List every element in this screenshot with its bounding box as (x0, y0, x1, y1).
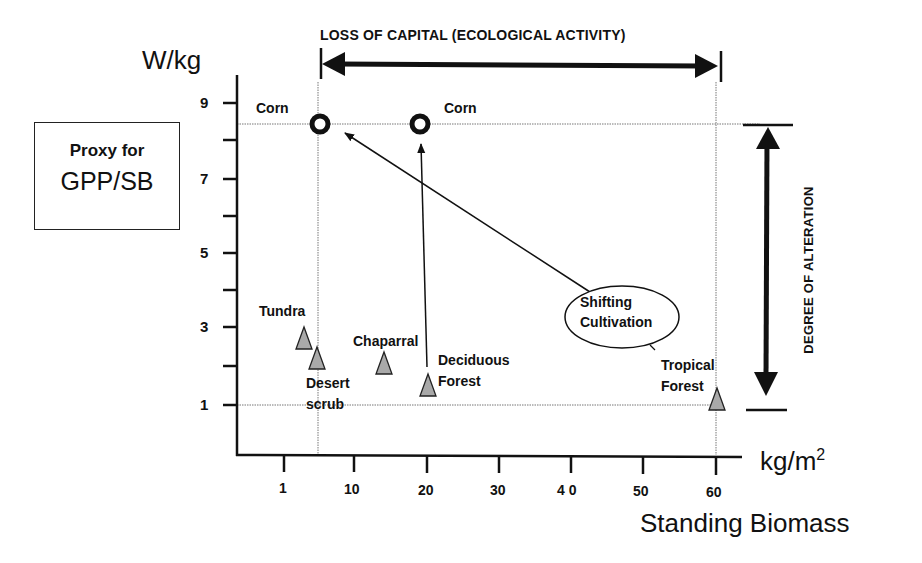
x-tick-60: 60 (706, 484, 722, 500)
desert-scrub-label-line2: scrub (306, 396, 344, 412)
degree-of-alteration-label: DEGREE OF ALTERATION (801, 186, 816, 354)
corn-marker-left (312, 116, 328, 132)
arrow-deciduous-to-corn (421, 144, 427, 367)
y-tick-3: 3 (200, 318, 208, 335)
corn-label-left: Corn (256, 100, 289, 116)
shifting-cultivation-label-line2: Cultivation (580, 314, 652, 330)
tropical-forest-label-line1: Tropical (661, 357, 715, 373)
x-tick-20: 20 (418, 482, 434, 498)
x-axis-unit-base: kg/m (760, 446, 816, 476)
y-tick-5: 5 (200, 244, 208, 261)
deciduous-forest-triangle (420, 374, 436, 396)
x-axis-unit: kg/m2 (760, 446, 825, 477)
y-tick-9: 9 (200, 94, 208, 111)
corn-marker-right (412, 116, 428, 132)
loss-of-capital-arrow (321, 48, 721, 82)
x-axis (236, 455, 742, 475)
y-axis-title-box: Proxy for GPP/SB (34, 122, 180, 230)
tundra-triangle (296, 327, 312, 349)
x-tick-10: 10 (344, 481, 360, 497)
x-axis-unit-superscript: 2 (816, 446, 825, 463)
tropical-forest-triangle (709, 388, 725, 410)
x-tick-1: 1 (279, 480, 287, 496)
y-axis-unit: W/kg (142, 45, 201, 76)
deciduous-forest-label-line2: Forest (438, 373, 481, 389)
loss-of-capital-label: LOSS OF CAPITAL (ECOLOGICAL ACTIVITY) (320, 27, 626, 43)
x-tick-30: 30 (490, 482, 506, 498)
y-tick-7: 7 (200, 170, 208, 187)
chaparral-label: Chaparral (353, 333, 418, 349)
desert-scrub-triangle (309, 347, 325, 369)
chaparral-triangle (376, 352, 392, 374)
x-axis-title: Standing Biomass (640, 508, 850, 539)
y-axis-title-line2: GPP/SB (35, 167, 179, 196)
chart-canvas (0, 0, 922, 563)
x-tick-50: 50 (633, 483, 649, 499)
shifting-cultivation-label-line1: Shifting (580, 294, 632, 310)
y-axis (223, 75, 237, 456)
degree-of-alteration-arrow (743, 125, 793, 410)
y-tick-1: 1 (200, 396, 208, 413)
x-tick-40: 4 0 (557, 482, 576, 498)
arrow-shifting-to-corn (345, 133, 590, 292)
y-axis-title-line1: Proxy for (35, 141, 179, 161)
deciduous-forest-label-line1: Deciduous (438, 352, 510, 368)
desert-scrub-label-line1: Desert (306, 375, 350, 391)
corn-label-right: Corn (444, 100, 477, 116)
tropical-forest-label-line2: Forest (661, 378, 704, 394)
tundra-label: Tundra (259, 303, 305, 319)
